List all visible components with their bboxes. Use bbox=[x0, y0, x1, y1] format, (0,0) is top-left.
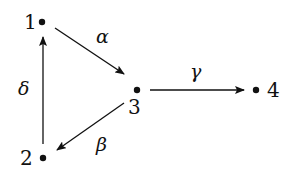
edge-label-gamma: γ bbox=[190, 60, 202, 82]
node-3-dot bbox=[134, 87, 140, 93]
node-2-label: 2 bbox=[20, 146, 33, 170]
edge-label-alpha: α bbox=[96, 25, 109, 47]
graph-svg: 1 2 3 4 α β γ δ bbox=[0, 0, 298, 173]
node-1-dot bbox=[39, 19, 45, 25]
node-4-label: 4 bbox=[267, 78, 280, 102]
node-2-dot bbox=[40, 155, 46, 161]
edge-label-delta: δ bbox=[18, 77, 29, 99]
node-1-label: 1 bbox=[24, 10, 37, 34]
edge-1-3 bbox=[55, 28, 124, 74]
graph-diagram: 1 2 3 4 α β γ δ bbox=[0, 0, 298, 173]
node-3-label: 3 bbox=[128, 95, 141, 119]
node-4-dot bbox=[253, 87, 259, 93]
edge-label-beta: β bbox=[95, 133, 107, 155]
edge-3-2 bbox=[57, 103, 124, 150]
